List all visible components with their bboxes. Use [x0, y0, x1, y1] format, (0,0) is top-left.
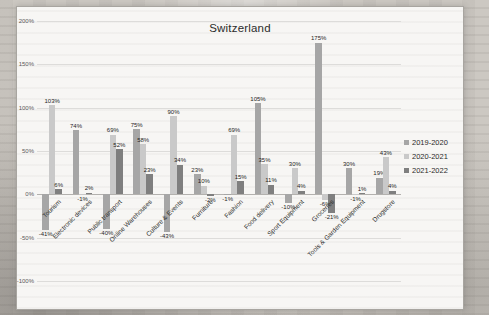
- bar-2021-2022-tourism: [55, 189, 62, 194]
- bar-2020-2021-furniture: [201, 186, 208, 195]
- y-axis-tick-label: 50%: [4, 148, 34, 154]
- data-label: 175%: [308, 35, 330, 41]
- bar-2021-2022-online-warehouses: [146, 174, 153, 194]
- y-axis-tick-label: -100%: [4, 278, 34, 284]
- gridline: [37, 64, 401, 65]
- bar-2019-2020-sport-equipment: [285, 194, 292, 203]
- legend-item-2020-2021: 2020-2021: [404, 152, 448, 161]
- data-label: 23%: [186, 167, 208, 173]
- chart-panel: Switzerland 200%150%100%50%0%-50%-100%-4…: [16, 6, 464, 310]
- data-label: 1%: [351, 186, 373, 192]
- bar-2021-2022-sport-equipment: [298, 191, 305, 194]
- data-label: 43%: [375, 150, 397, 156]
- bar-2021-2022-public-transport: [116, 149, 123, 194]
- y-axis-tick-label: 200%: [4, 18, 34, 24]
- bar-2020-2021-tools-garden-equipment: [352, 194, 359, 195]
- gridline: [37, 21, 401, 22]
- legend-swatch-icon: [404, 140, 409, 145]
- legend-label: 2021-2022: [412, 166, 448, 175]
- bar-2021-2022-electronic-devices: [86, 193, 93, 195]
- data-label: 34%: [169, 157, 191, 163]
- gridline: [37, 108, 401, 109]
- x-axis-line: [37, 194, 401, 195]
- legend-item-2019-2020: 2019-2020: [404, 138, 448, 147]
- bar-2021-2022-food-delivery: [268, 185, 275, 195]
- data-label: 69%: [223, 127, 245, 133]
- plot-area: 200%150%100%50%0%-50%-100%-41%74%-40%75%…: [37, 21, 401, 281]
- data-label: 23%: [139, 167, 161, 173]
- data-label: 90%: [163, 109, 185, 115]
- bar-2021-2022-fashion: [237, 181, 244, 194]
- legend-swatch-icon: [404, 168, 409, 173]
- data-label: 10%: [193, 178, 215, 184]
- data-label: 4%: [290, 183, 312, 189]
- data-label: 4%: [381, 183, 403, 189]
- legend-label: 2020-2021: [412, 152, 448, 161]
- data-label: 35%: [254, 157, 276, 163]
- gridline: [37, 151, 401, 152]
- data-label: 69%: [102, 127, 124, 133]
- bar-2019-2020-fashion: [224, 194, 231, 195]
- bar-2021-2022-drugstore: [389, 191, 396, 194]
- data-label: 58%: [132, 137, 154, 143]
- legend-label: 2019-2020: [412, 138, 448, 147]
- data-label: 103%: [41, 98, 63, 104]
- bar-2020-2021-electronic-devices: [79, 194, 86, 195]
- legend-swatch-icon: [404, 154, 409, 159]
- data-label: 2%: [78, 185, 100, 191]
- data-label: 75%: [126, 122, 148, 128]
- data-label: 52%: [108, 142, 130, 148]
- legend: 2019-20202020-20212021-2022: [404, 138, 448, 180]
- y-axis-tick-label: 0%: [4, 191, 34, 197]
- bar-2021-2022-furniture: [207, 194, 214, 196]
- y-axis-tick-label: 100%: [4, 105, 34, 111]
- data-label: 105%: [247, 96, 269, 102]
- data-label: 11%: [260, 177, 282, 183]
- data-label: 15%: [230, 174, 252, 180]
- bar-2021-2022-culture-events: [177, 165, 184, 194]
- screenshot-root: { "title": "Switzerland", "chart_data": …: [0, 0, 489, 315]
- data-label: 6%: [48, 182, 70, 188]
- legend-item-2021-2022: 2021-2022: [404, 166, 448, 175]
- data-label: 30%: [338, 161, 360, 167]
- data-label: 74%: [65, 123, 87, 129]
- y-axis-tick-label: 150%: [4, 61, 34, 67]
- data-label: 30%: [284, 161, 306, 167]
- bar-2019-2020-groceries: [315, 43, 322, 195]
- bar-2021-2022-tools-garden-equipment: [359, 193, 366, 194]
- gridline: [37, 238, 401, 239]
- gridline: [37, 281, 401, 282]
